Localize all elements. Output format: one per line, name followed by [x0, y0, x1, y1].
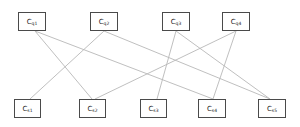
- node-cs1: Cs1: [14, 99, 41, 118]
- node-label-sub: q4: [236, 21, 242, 26]
- node-cs4: Cs4: [198, 99, 226, 118]
- edge-cq4-cs2: [95, 31, 236, 99]
- node-label-sub: s1: [27, 108, 32, 113]
- node-label-sub: s3: [153, 108, 158, 113]
- node-cq1: Cq1: [18, 12, 46, 31]
- node-cs2: Cs2: [79, 99, 106, 118]
- edge-cq4-cs4: [213, 31, 236, 99]
- node-label-sub: s4: [212, 108, 217, 113]
- node-cq3: Cq3: [162, 12, 190, 31]
- node-label-sub: q3: [176, 21, 182, 26]
- node-cq4: Cq4: [222, 12, 250, 31]
- bipartite-diagram: Cq1 Cq2 Cq3 Cq4 Cs1 Cs2 Cs3 Cs4 Cs5: [0, 0, 300, 127]
- node-label-sub: s2: [92, 108, 97, 113]
- node-cs5: Cs5: [258, 99, 286, 118]
- node-cq2: Cq2: [90, 12, 118, 31]
- node-label-sub: q1: [32, 21, 38, 26]
- node-label-sub: q2: [104, 21, 110, 26]
- edge-cq3-cs5: [176, 31, 270, 99]
- node-label-sub: s5: [272, 108, 277, 113]
- edge-cq2-cs1: [30, 31, 104, 99]
- edge-cq1-cs2: [35, 31, 92, 99]
- node-cs3: Cs3: [140, 99, 167, 118]
